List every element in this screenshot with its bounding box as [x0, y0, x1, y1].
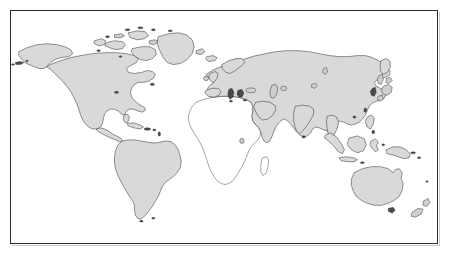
region-banks-island	[95, 39, 106, 46]
frame-shadow-bottom	[12, 245, 440, 246]
region-australia	[351, 167, 403, 206]
region-puerto-rico	[153, 129, 156, 131]
lesser-sunda-islet	[360, 162, 364, 164]
region-ireland	[203, 76, 208, 80]
arctic-islet-dot-2	[125, 29, 130, 31]
region-sulawesi	[370, 139, 378, 152]
region-cuba	[127, 123, 143, 129]
region-taiwan	[364, 108, 367, 112]
arctic-islet-dot-1	[106, 36, 110, 38]
aral-sea	[281, 86, 287, 91]
newfoundland	[150, 83, 154, 85]
pacific-islet-1	[426, 181, 428, 183]
map-figure-page	[0, 0, 449, 257]
region-aleutian-islands	[15, 62, 24, 65]
region-japan-hokkaido	[386, 77, 392, 83]
hudson-strait-mark	[97, 50, 101, 52]
great-lakes-mark	[114, 91, 118, 93]
moluccas-islet	[382, 144, 385, 146]
region-java	[339, 157, 357, 162]
region-borneo	[347, 136, 366, 153]
arctic-islet-dot-4	[151, 29, 155, 31]
frame-shadow-right	[439, 12, 440, 246]
region-falkland-islands	[152, 217, 155, 219]
region-victoria-island	[106, 41, 126, 50]
hudson-bay-islet	[119, 56, 122, 58]
map-border-frame	[10, 10, 438, 244]
greenland-north-islet	[168, 30, 172, 32]
region-tasmania	[388, 207, 395, 213]
region-madagascar	[261, 157, 269, 176]
region-central-america	[97, 128, 123, 142]
region-japan-honshu	[381, 84, 392, 95]
region-new-zealand-north	[423, 198, 430, 206]
region-philippines	[365, 115, 374, 129]
region-crete	[243, 99, 247, 101]
region-arctic-islet-1	[115, 34, 125, 38]
region-south-america	[115, 140, 182, 219]
region-florida	[123, 114, 129, 123]
region-iceland	[206, 56, 217, 62]
region-sumatra	[325, 133, 345, 154]
region-hispaniola	[144, 128, 150, 131]
world-map-svg	[11, 11, 437, 243]
solomon-islets	[417, 157, 420, 159]
black-sea	[246, 88, 256, 93]
aleutian-islet-2	[26, 60, 29, 61]
region-new-zealand-south	[411, 208, 423, 217]
region-tierra-del-fuego	[140, 220, 144, 222]
region-sicily	[229, 100, 232, 102]
aleutian-islet-1	[11, 64, 14, 66]
region-arctic-islet-2	[149, 40, 158, 45]
philippines-islet	[372, 130, 375, 134]
region-new-guinea	[386, 147, 410, 159]
region-lesser-antilles	[158, 132, 160, 136]
region-north-america	[47, 53, 155, 129]
new-britain-islet	[411, 152, 416, 154]
region-sri-lanka	[302, 136, 305, 138]
region-ellesmere-island	[128, 31, 148, 40]
region-greenland	[157, 33, 194, 65]
region-svalbard	[196, 49, 205, 55]
region-africa	[188, 96, 261, 184]
arctic-islet-dot-3	[138, 27, 143, 29]
region-hainan	[353, 116, 356, 118]
africa-interior-lake	[240, 138, 244, 143]
